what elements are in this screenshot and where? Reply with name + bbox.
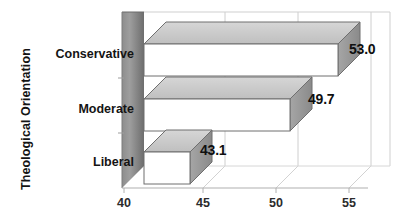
bar-conservative[interactable] <box>144 22 360 76</box>
x-axis <box>122 188 368 193</box>
value-label-conservative: 53.0 <box>349 42 375 56</box>
bar-moderate-front-face <box>144 99 290 131</box>
category-label-conservative: Conservative <box>0 48 134 61</box>
bar-liberal-front-face <box>144 152 190 184</box>
bar-conservative-top-face <box>144 22 360 44</box>
value-label-moderate: 49.7 <box>308 92 334 106</box>
y-axis-title: Theological Orientation <box>20 48 33 190</box>
x-tick-label-55: 55 <box>329 197 369 210</box>
value-label-liberal: 43.1 <box>200 143 226 157</box>
x-tick-label-40: 40 <box>104 197 144 210</box>
bar-chart-figure: Theological Orientation Conservative Mod… <box>0 0 412 223</box>
bar-moderate-top-face <box>144 77 312 99</box>
x-tick-label-45: 45 <box>183 197 223 210</box>
category-label-moderate: Moderate <box>0 103 134 116</box>
bar-conservative-front-face <box>144 44 338 76</box>
bar-moderate[interactable] <box>144 77 312 131</box>
x-tick-label-50: 50 <box>256 197 296 210</box>
category-label-liberal: Liberal <box>0 156 134 169</box>
